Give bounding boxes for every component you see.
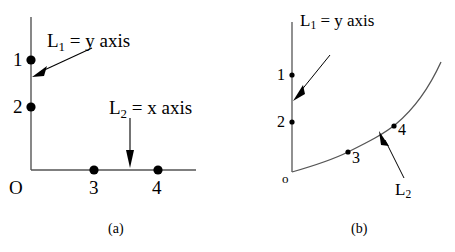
panel-a-l1-arrowhead [32,66,47,77]
panel-b-tick-label-1: 1 [277,67,285,83]
panel-a-tick-label-3: 3 [89,178,99,197]
panel-b-tick-label-3: 3 [352,150,360,166]
panel-a-l1-label: L1 = y axis [47,31,130,54]
panel-b-l1-arrowhead [293,85,305,101]
panel-b-l1-label: L1 = y axis [300,12,374,32]
panel-b-origin-label: o [282,172,289,185]
panel-b-drawing [289,22,441,178]
panel-a-point-1 [26,55,35,64]
panel-b-caption: (b) [351,222,367,236]
panel-b-curve-l2 [292,62,441,172]
panel-a-point-4 [153,165,162,174]
panel-b-point-1 [289,72,294,77]
panel-b-l2-label: L2 [395,181,411,201]
panel-b-point-2 [289,119,294,124]
panel-a-point-3 [89,165,98,174]
panel-a-tick-label-2: 2 [13,97,23,116]
panel-a-tick-label-1: 1 [13,50,23,69]
panel-b-point-4 [391,123,396,128]
panel-b-tick-label-4: 4 [398,122,406,138]
panel-a-origin-label: O [9,178,23,197]
figure-container: L1 = y axis L2 = x axis 1 2 3 4 O L1 = y… [0,0,455,252]
panel-b-tick-label-2: 2 [277,114,285,130]
panel-a-point-2 [26,102,35,111]
panel-a-caption: (a) [108,222,124,236]
panel-a-tick-label-4: 4 [152,178,162,197]
panel-a-l2-arrowhead [126,150,134,168]
panel-a-l2-label: L2 = x axis [109,98,192,121]
panel-b-l1-leader [300,55,330,92]
panel-b-point-3 [345,149,350,154]
